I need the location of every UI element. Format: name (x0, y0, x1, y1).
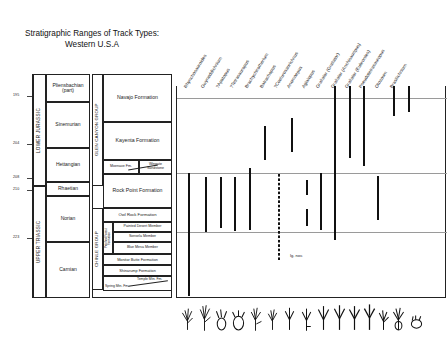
group-chinle: CHINLE GROUP (92, 208, 103, 290)
stage-label: Carnian (59, 267, 77, 272)
age-tick-label: 208 (13, 175, 19, 179)
stage-label: Norian (61, 216, 76, 221)
range-bar-gwyneddichnium (205, 177, 207, 232)
unit-label: Monitor Butte Formation (117, 258, 158, 262)
stage-norian: Norian (46, 196, 90, 242)
age-tick-label: 204 (13, 141, 19, 145)
age-tick-mark (27, 190, 32, 191)
group-glen-canyon: GLEN CANYON GROUP (92, 74, 103, 186)
unconformity-line (103, 290, 172, 291)
unit-label: Moenave Fm. (110, 165, 132, 169)
range-bar-agialopus (320, 173, 322, 230)
unit-blue-mesa-member: Blue Mesa Member (113, 242, 172, 254)
stage-label: Pliensbachian (part) (47, 83, 89, 94)
footprint-icon-otozoum (390, 301, 407, 335)
range-bar-brachychirotherium-upper (264, 126, 266, 160)
unit-moenave-fm: Moenave Fm. (103, 160, 139, 174)
unit-label: Blue Mesa Member (127, 246, 158, 250)
stage-carnian: Carnian (46, 242, 90, 298)
subgroup-label: Petrified Forest Formation (105, 223, 111, 253)
range-bar-brachychirotherium (249, 168, 251, 230)
unit-label: Shinarump Formation (119, 269, 156, 273)
correlation-line (177, 173, 447, 174)
unit-monitor-butte-formation: Monitor Butte Formation (103, 254, 172, 265)
footprint-icon-apatopus (213, 301, 230, 335)
range-bar-brasilichnium (408, 86, 410, 112)
unit-label: Kayenta Formation (116, 138, 160, 143)
age-tick-mark (27, 96, 32, 97)
range-bar-grallator-anchisauripus (349, 86, 351, 158)
footprint-icon-agialopus (315, 301, 332, 335)
age-tick-label: 210 (13, 187, 19, 191)
unit-spring-mtn-fm: Spring Mtn. Fm. (105, 284, 129, 288)
unit-label: Owl Rock Formation (119, 213, 157, 217)
unit-painted-desert-member: Painted Desert Member (113, 222, 172, 232)
unit-label: Rock Point Formation (113, 188, 163, 193)
stage-sinemurian: Sinemurian (46, 102, 90, 148)
age-tick-mark (27, 238, 32, 239)
annotation-ig-nov: Ig. nov. (290, 253, 303, 258)
age-tick-mark (27, 178, 32, 179)
group-label: CHINLE GROUP (95, 231, 100, 267)
age-tick-label: 223 (13, 235, 19, 239)
range-bar-batrachopus (278, 174, 280, 260)
footprint-icon-brasilichnium (408, 301, 425, 335)
range-bar-apatopus (220, 177, 222, 228)
unit-navajo-formation: Navajo Formation (103, 74, 172, 122)
footprint-icon-batrachopus (264, 301, 281, 335)
footprint-illustration-row (176, 299, 446, 337)
group-label: GLEN CANYON GROUP (95, 104, 100, 157)
system-upper-triassic: UPPER TRIASSIC (33, 186, 46, 298)
stage-label: Hettangian (56, 162, 80, 167)
range-chart-panel: Ig. nov. (176, 86, 446, 298)
unit-sonsela-member: Sonsela Member (113, 232, 172, 242)
range-bar-anomoepus-upper (306, 180, 308, 195)
range-bar-tetrasauropus (234, 177, 236, 231)
unit-label: Sonsela Member (129, 235, 156, 239)
unit-shinarump-formation: Shinarump Formation (103, 265, 172, 276)
range-bar-pseudotetrasauropus (377, 176, 379, 220)
figure-title-line2: Western U.S.A (8, 39, 176, 50)
age-tick-mark (27, 144, 32, 145)
range-bar-otozoum (393, 86, 395, 116)
figure-stratigraphic-ranges: Stratigraphic Ranges of Track Types: Wes… (0, 0, 447, 338)
unit-label: Painted Desert Member (124, 225, 162, 229)
subgroup-petrified-forest-formation: Petrified Forest Formation (103, 222, 113, 254)
unit-owl-rock-formation: Owl Rock Formation (103, 208, 172, 222)
footprint-icon-brachychirotherium (247, 301, 264, 335)
stage-pliensbachian: Pliensbachian (part) (46, 74, 90, 102)
figure-title: Stratigraphic Ranges of Track Types: Wes… (8, 28, 176, 50)
stage-hettangian: Hettangian (46, 148, 90, 182)
range-bar-grallator-eubrontes (363, 86, 365, 166)
system-lower-jurassic: LOWER JURASSIC (33, 74, 46, 186)
footprint-icon-rhynchosauroides (179, 301, 196, 335)
footprint-icon-tetrasauropus (230, 301, 247, 335)
range-bar-anomoepus-lower (306, 209, 308, 226)
range-bar-grallator-grallator (334, 86, 336, 240)
correlation-line (177, 232, 447, 233)
footprint-icon-coelurosaurichnus (281, 301, 298, 335)
stage-rhaetian: Rhaetian (46, 182, 90, 196)
system-label: LOWER JURASSIC (37, 107, 42, 152)
unit-label: Navajo Formation (117, 95, 158, 100)
footprint-icon-anomoepus (298, 301, 315, 335)
age-tick-label: 195 (13, 93, 19, 97)
figure-title-line1: Stratigraphic Ranges of Track Types: (8, 28, 176, 39)
footprint-icon-gwyneddichnium (196, 301, 213, 335)
system-label: UPPER TRIASSIC (37, 221, 42, 263)
unit-rock-point-formation: Rock Point Formation (103, 174, 172, 208)
unit-kayenta-formation: Kayenta Formation (103, 122, 172, 160)
correlation-line (177, 98, 447, 99)
stage-label: Rhaetian (58, 186, 78, 191)
range-bar-coelurosaurichnus (291, 118, 293, 152)
stage-label: Sinemurian (55, 122, 80, 127)
range-bar-rhynchosauroides (188, 173, 190, 296)
